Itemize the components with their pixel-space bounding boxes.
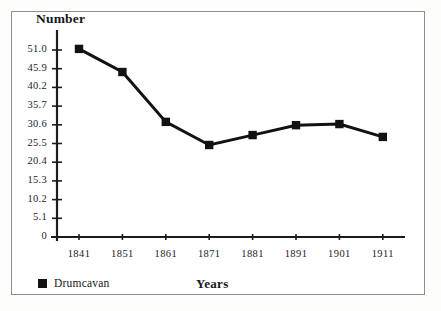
y-tick-label: 40.2	[3, 80, 47, 91]
legend-label: Drumcavan	[54, 277, 109, 289]
y-tick-label: 10.2	[3, 193, 47, 204]
x-tick-label: 1871	[187, 248, 231, 259]
y-tick-label: 20.4	[3, 155, 47, 166]
data-line	[79, 49, 383, 145]
y-tick-label: 0	[3, 230, 47, 241]
y-tick-label: 5.1	[3, 211, 47, 222]
x-tick-label: 1841	[57, 248, 101, 259]
y-tick-label: 30.6	[3, 118, 47, 129]
x-tick-label: 1861	[144, 248, 188, 259]
data-point-marker	[248, 131, 256, 139]
data-point-marker	[205, 141, 213, 149]
data-point-marker	[292, 121, 300, 129]
y-tick-label: 25.5	[3, 137, 47, 148]
y-tick-label: 51.0	[3, 43, 47, 54]
legend-swatch-icon	[38, 279, 47, 288]
y-tick-label: 15.3	[3, 174, 47, 185]
x-tick-label: 1901	[317, 248, 361, 259]
series-markers-drumcavan	[75, 45, 387, 149]
data-point-marker	[118, 68, 126, 76]
x-tick-label: 1851	[100, 248, 144, 259]
data-point-marker	[379, 133, 387, 141]
x-tick-label: 1891	[274, 248, 318, 259]
y-tick-label: 45.9	[3, 62, 47, 73]
data-point-marker	[162, 118, 170, 126]
x-tick-label: 1881	[231, 248, 275, 259]
x-tick-label: 1911	[361, 248, 405, 259]
data-point-marker	[335, 120, 343, 128]
chart-figure: Number Years 51.045.940.235.730.625.520.…	[0, 0, 441, 311]
chart-legend: Drumcavan	[38, 277, 109, 289]
plot-area	[0, 0, 441, 311]
data-point-marker	[75, 45, 83, 53]
series-line-drumcavan	[79, 49, 383, 145]
y-tick-label: 35.7	[3, 99, 47, 110]
